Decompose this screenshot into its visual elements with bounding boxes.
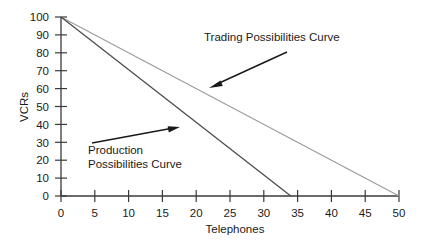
y-tick-label-10: 10 [36, 172, 49, 184]
x-axis-tick-labels: 0 5 10 15 20 25 30 35 40 45 50 [58, 207, 406, 219]
y-tick-label-100: 100 [30, 11, 49, 23]
y-tick-label-0: 0 [43, 190, 49, 202]
x-tick-label-25: 25 [224, 207, 237, 219]
x-tick-label-0: 0 [58, 207, 64, 219]
y-tick-label-60: 60 [36, 83, 49, 95]
x-tick-label-30: 30 [257, 207, 270, 219]
ppc-annotation-label-line1: Production [88, 144, 143, 156]
y-tick-label-90: 90 [36, 29, 49, 41]
y-tick-label-20: 20 [36, 154, 49, 166]
x-tick-label-35: 35 [291, 207, 304, 219]
y-tick-label-40: 40 [36, 119, 49, 131]
chart-container: 100 90 80 70 60 50 40 30 20 10 0 0 5 10 … [0, 0, 430, 244]
x-tick-label-15: 15 [156, 207, 169, 219]
x-tick-label-20: 20 [190, 207, 203, 219]
economics-ppc-chart: 100 90 80 70 60 50 40 30 20 10 0 0 5 10 … [0, 0, 430, 244]
x-tick-label-5: 5 [92, 207, 98, 219]
y-tick-label-70: 70 [36, 65, 49, 77]
x-tick-label-40: 40 [325, 207, 338, 219]
tpc-annotation-label: Trading Possibilities Curve [204, 31, 340, 43]
y-axis-tick-labels: 100 90 80 70 60 50 40 30 20 10 0 [30, 11, 49, 202]
y-tick-label-50: 50 [36, 101, 49, 113]
y-tick-label-80: 80 [36, 47, 49, 59]
y-axis-title: VCRs [18, 92, 30, 122]
x-tick-label-45: 45 [359, 207, 372, 219]
x-axis-title: Telephones [206, 223, 265, 235]
x-tick-label-50: 50 [393, 207, 406, 219]
y-tick-label-30: 30 [36, 137, 49, 149]
ppc-annotation-arrow [92, 126, 180, 143]
ppc-annotation-label-line2: Possibilities Curve [88, 158, 182, 170]
tpc-annotation-arrow [209, 52, 287, 88]
x-tick-label-10: 10 [122, 207, 135, 219]
